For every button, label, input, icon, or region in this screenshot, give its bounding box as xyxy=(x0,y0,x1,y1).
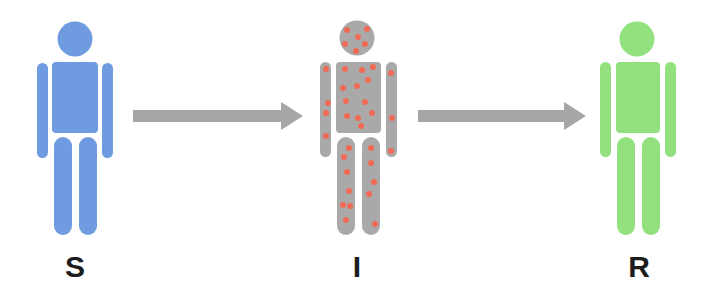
recovered-person-icon xyxy=(600,22,676,236)
label-r: R xyxy=(619,250,659,284)
susceptible-person-icon xyxy=(37,22,113,236)
infected-person-icon xyxy=(320,21,397,236)
arrow-s-to-i xyxy=(133,102,303,130)
label-s: S xyxy=(55,250,95,284)
label-i: I xyxy=(337,250,377,284)
virus-spots xyxy=(323,26,395,227)
arrow-i-to-r xyxy=(418,102,586,130)
